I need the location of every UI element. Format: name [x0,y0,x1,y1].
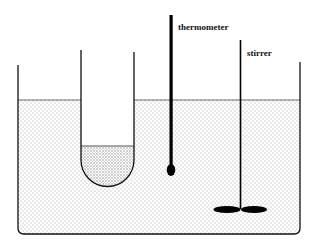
stirrer-label: stirrer [247,48,272,58]
thermometer-label: thermometer [178,22,228,32]
thermometer-bulb [167,164,176,176]
bath-liquid [18,100,300,234]
apparatus-diagram: thermometer stirrer [0,0,317,247]
thermometer-stem [170,15,173,165]
stirrer-paddle-right [241,206,267,213]
stirrer-paddle-left [214,206,241,213]
